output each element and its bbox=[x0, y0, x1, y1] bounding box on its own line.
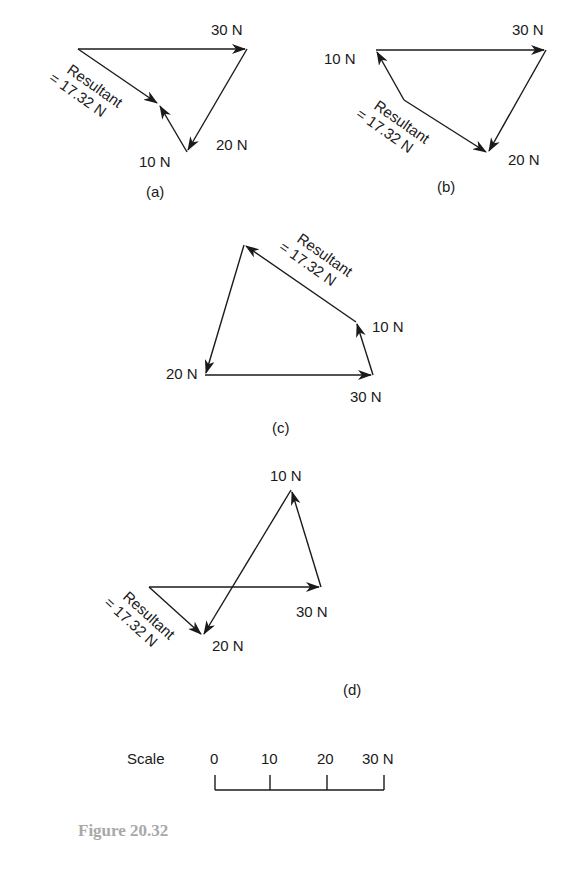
scale-tick-0: 0 bbox=[210, 750, 218, 767]
label-10n: 10 N bbox=[270, 467, 302, 484]
vector-10n bbox=[292, 492, 321, 587]
scale-title: Scale bbox=[127, 750, 165, 767]
label-10n: 10 N bbox=[139, 153, 171, 170]
scale-tick-10: 10 bbox=[261, 750, 278, 767]
panel-a: 30 N 20 N 10 N Resultant = 17.32 N (a) bbox=[46, 21, 247, 200]
label-20n: 20 N bbox=[166, 365, 198, 382]
label-10n: 10 N bbox=[324, 50, 356, 67]
figure-caption: Figure 20.32 bbox=[78, 821, 168, 840]
label-20n: 20 N bbox=[212, 637, 244, 654]
scale-tick-20: 20 bbox=[317, 750, 334, 767]
vector-20n bbox=[204, 490, 291, 634]
panel-label-c: (c) bbox=[272, 419, 290, 436]
vector-20n bbox=[188, 49, 247, 150]
vector-10n bbox=[357, 324, 373, 375]
panel-label-d: (d) bbox=[343, 681, 361, 698]
label-20n: 20 N bbox=[508, 151, 540, 168]
scale-bar: Scale 0 10 20 30 N bbox=[127, 750, 394, 790]
vector-20n bbox=[489, 50, 546, 151]
label-30n: 30 N bbox=[211, 21, 243, 38]
vector-10n bbox=[160, 106, 187, 152]
panel-c: 30 N 20 N 10 N Resultant = 17.32 N (c) bbox=[166, 224, 404, 436]
label-30n: 30 N bbox=[350, 388, 382, 405]
panel-b: 30 N 20 N 10 N Resultant = 17.32 N (b) bbox=[324, 21, 546, 195]
vector-diagram: 30 N 20 N 10 N Resultant = 17.32 N (a) 3… bbox=[0, 0, 571, 873]
label-20n: 20 N bbox=[216, 136, 248, 153]
panel-label-b: (b) bbox=[437, 178, 455, 195]
vector-10n bbox=[377, 52, 404, 100]
scale-tick-30: 30 N bbox=[362, 750, 394, 767]
label-30n: 30 N bbox=[512, 21, 544, 38]
panel-d: 30 N 20 N 10 N Resultant = 17.32 N (d) bbox=[101, 467, 361, 698]
label-30n: 30 N bbox=[296, 603, 328, 620]
vector-20n bbox=[206, 245, 244, 373]
label-10n: 10 N bbox=[372, 318, 404, 335]
panel-label-a: (a) bbox=[146, 183, 164, 200]
